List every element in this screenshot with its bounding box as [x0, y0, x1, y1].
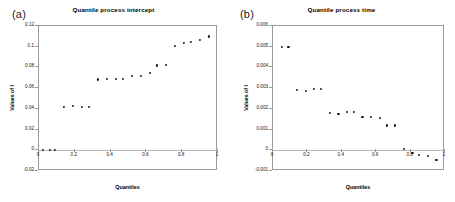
x-tick-mark — [341, 149, 342, 152]
plot-area-b — [272, 25, 444, 170]
y-tick-mark — [35, 170, 38, 171]
data-point — [165, 64, 167, 66]
y-tick-mark — [269, 66, 272, 67]
data-point — [106, 78, 108, 80]
y-tick-label: 0.004 — [257, 64, 269, 69]
y-tick-label: 0.1 — [28, 43, 34, 48]
y-tick-label: 0.06 — [25, 85, 34, 90]
y-tick-label: 0.003 — [257, 85, 269, 90]
y-tick-label: 0 — [31, 147, 34, 152]
data-point — [337, 113, 339, 115]
data-point — [63, 106, 65, 108]
y-tick-mark — [35, 25, 38, 26]
y-axis-label-a: Values of I — [9, 85, 15, 111]
data-point — [394, 124, 396, 126]
x-tick-label: 0.8 — [406, 153, 412, 158]
y-tick-label: 0.12 — [25, 23, 34, 28]
panel-quantile-process-intercept: (a) Quantile process intercept Quantiles… — [0, 0, 227, 202]
x-tick-label: 0.6 — [372, 153, 378, 158]
data-point — [97, 78, 99, 80]
data-point — [353, 111, 355, 113]
data-point — [199, 39, 201, 41]
y-tick-mark — [35, 66, 38, 67]
x-tick-label: 0 — [37, 153, 40, 158]
x-tick-mark — [217, 149, 218, 152]
panel-title-b: Quantile process time — [228, 6, 455, 13]
y-tick-mark — [35, 46, 38, 47]
y-tick-mark — [269, 129, 272, 130]
x-axis-label-b: Quantiles — [346, 184, 371, 190]
x-tick-label: 0.4 — [106, 153, 112, 158]
data-point — [72, 105, 74, 107]
y-tick-mark — [269, 108, 272, 109]
data-point — [149, 72, 151, 74]
data-point — [313, 88, 315, 90]
x-tick-label: 0 — [271, 153, 274, 158]
data-point — [379, 117, 381, 119]
data-point — [296, 89, 298, 91]
data-point — [427, 155, 429, 157]
data-point — [287, 46, 289, 48]
x-tick-mark — [181, 149, 182, 152]
data-point — [346, 111, 348, 113]
data-point — [370, 115, 372, 117]
x-tick-mark — [444, 149, 445, 152]
x-tick-label: 1 — [443, 153, 446, 158]
zero-baseline — [273, 150, 445, 151]
data-point — [115, 78, 117, 80]
y-tick-label: -0.02 — [24, 168, 34, 173]
data-point — [140, 75, 142, 77]
y-tick-mark — [269, 46, 272, 47]
data-point — [281, 46, 283, 48]
data-point — [88, 105, 90, 107]
data-point — [183, 42, 185, 44]
x-tick-label: 0.4 — [338, 153, 344, 158]
y-tick-label: 0.02 — [25, 126, 34, 131]
data-point — [156, 64, 158, 66]
x-tick-mark — [272, 149, 273, 152]
x-tick-mark — [375, 149, 376, 152]
x-tick-label: 0.2 — [71, 153, 77, 158]
data-point — [320, 88, 322, 90]
y-tick-mark — [35, 87, 38, 88]
y-tick-label: 0.001 — [257, 126, 269, 131]
y-axis-label-b: Values of I — [243, 85, 249, 111]
data-point — [305, 90, 307, 92]
y-tick-label: 0.005 — [257, 43, 269, 48]
panel-quantile-process-time: (b) Quantile process time Quantiles Valu… — [228, 0, 455, 202]
y-tick-label: 0.08 — [25, 64, 34, 69]
y-tick-label: 0.006 — [257, 23, 269, 28]
x-axis-label-a: Quantiles — [115, 184, 140, 190]
x-tick-mark — [145, 149, 146, 152]
y-tick-label: 0 — [265, 147, 268, 152]
data-point — [418, 154, 420, 156]
y-tick-mark — [269, 170, 272, 171]
figure-container: (a) Quantile process intercept Quantiles… — [0, 0, 455, 202]
x-tick-mark — [74, 149, 75, 152]
data-point — [208, 35, 210, 37]
y-tick-mark — [35, 129, 38, 130]
y-tick-mark — [269, 87, 272, 88]
data-point — [81, 105, 83, 107]
data-point — [329, 111, 331, 113]
panel-title-a: Quantile process intercept — [0, 6, 227, 13]
data-point — [174, 45, 176, 47]
data-point — [361, 115, 363, 117]
x-tick-mark — [110, 149, 111, 152]
data-point — [122, 78, 124, 80]
zero-baseline — [39, 150, 218, 151]
y-tick-mark — [35, 108, 38, 109]
x-tick-label: 0.6 — [142, 153, 148, 158]
data-point — [131, 75, 133, 77]
y-tick-label: 0.002 — [257, 106, 269, 111]
x-tick-label: 0.2 — [303, 153, 309, 158]
x-tick-label: 1 — [216, 153, 219, 158]
data-point — [435, 159, 437, 161]
y-tick-label: -0.001 — [255, 168, 268, 173]
plot-area-a — [38, 25, 217, 170]
data-point — [385, 124, 387, 126]
y-tick-label: 0.04 — [25, 106, 34, 111]
x-tick-mark — [38, 149, 39, 152]
x-tick-label: 0.8 — [178, 153, 184, 158]
x-tick-mark — [410, 149, 411, 152]
